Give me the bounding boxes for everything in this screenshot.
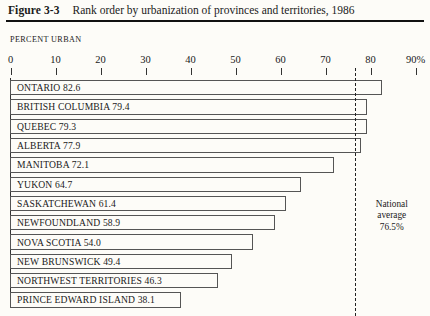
x-tick-mark-70 [326,68,327,75]
x-tick-label-70: 70 [320,54,331,65]
bar-label: BRITISH COLUMBIA 79.4 [11,101,130,112]
figure-title: Rank order by urbanization of provinces … [60,4,355,16]
annotation-line-3: 76.5% [361,222,423,234]
x-tick-mark-90 [416,68,417,75]
bar-row: YUKON 64.7 [10,177,301,192]
x-tick-label-60: 60 [275,54,286,65]
bar-label: PRINCE EDWARD ISLAND 38.1 [11,294,155,305]
x-tick-label-20: 20 [95,54,106,65]
bar-label: NORTHWEST TERRITORIES 46.3 [11,275,162,286]
bar-label: NOVA SCOTIA 54.0 [11,237,101,248]
x-tick-mark-50 [236,68,237,75]
x-tick-mark-30 [146,68,147,75]
x-tick-mark-60 [281,68,282,75]
bar-row: NEWFOUNDLAND 58.9 [10,215,275,230]
bar-row: MANITOBA 72.1 [10,157,334,172]
axis-label-percent-urban: PERCENT URBAN [10,35,82,44]
bar-row: NOVA SCOTIA 54.0 [10,234,253,249]
bar-label: NEWFOUNDLAND 58.9 [11,217,120,228]
x-tick-mark-10 [56,68,57,75]
annotation-line-2: average [361,210,423,222]
bar-label: ONTARIO 82.6 [11,82,80,93]
x-axis-tick-marks [0,68,430,78]
figure-container: Figure 3-3 Rank order by urbanization of… [0,0,430,316]
x-tick-mark-80 [371,68,372,75]
x-tick-mark-40 [191,68,192,75]
bar-label: QUEBEC 79.3 [11,121,76,132]
national-average-annotation: National average 76.5% [361,199,423,234]
bar-label: YUKON 64.7 [11,179,72,190]
bar-label: ALBERTA 77.9 [11,140,80,151]
bar-label: SASKATCHEWAN 61.4 [11,198,116,209]
bar-row: PRINCE EDWARD ISLAND 38.1 [10,292,181,307]
annotation-line-1: National [361,199,423,211]
x-axis-tick-labels: 0102030405060708090% [0,54,430,68]
x-tick-label-50: 50 [230,54,241,65]
x-tick-label-90: 90% [406,54,425,65]
bar-row: NORTHWEST TERRITORIES 46.3 [10,273,218,288]
figure-caption: Figure 3-3 Rank order by urbanization of… [0,0,430,20]
bar-row: NEW BRUNSWICK 49.4 [10,254,232,269]
plot-area: ONTARIO 82.6BRITISH COLUMBIA 79.4QUEBEC … [0,78,430,316]
national-average-line [355,68,356,316]
x-tick-mark-20 [101,68,102,75]
bar-row: QUEBEC 79.3 [10,119,367,134]
bar-row: SASKATCHEWAN 61.4 [10,196,286,211]
bar-series: ONTARIO 82.6BRITISH COLUMBIA 79.4QUEBEC … [0,78,430,316]
x-tick-label-40: 40 [185,54,196,65]
bar-row: ONTARIO 82.6 [10,80,382,95]
x-tick-label-10: 10 [50,54,61,65]
x-tick-label-80: 80 [365,54,376,65]
x-tick-label-0: 0 [8,54,13,65]
caption-divider [6,20,424,22]
bar-label: NEW BRUNSWICK 49.4 [11,256,121,267]
x-tick-label-30: 30 [140,54,151,65]
figure-number: Figure 3-3 [0,4,60,16]
bar-row: BRITISH COLUMBIA 79.4 [10,99,367,114]
x-tick-mark-0 [11,68,12,75]
bar-label: MANITOBA 72.1 [11,159,89,170]
bar-row: ALBERTA 77.9 [10,138,361,153]
